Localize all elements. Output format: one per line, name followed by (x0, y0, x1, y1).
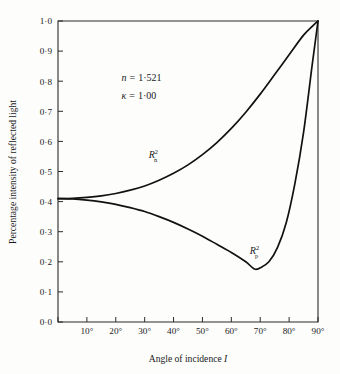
x-tick-label: 30° (138, 326, 151, 336)
y-tick-label: 0·0 (40, 317, 53, 327)
parameter-annotations: n=1·521κ=1·00 (122, 72, 162, 101)
y-tick-label: 0·4 (40, 197, 53, 207)
y-tick-label: 0·8 (40, 77, 53, 87)
x-tick-label: 90° (312, 326, 325, 336)
x-tick-label: 40° (167, 326, 180, 336)
x-tick-label: 20° (109, 326, 122, 336)
curve-label-R_n^2: R2n (148, 148, 158, 163)
curve-labels: R2nR2p (148, 148, 259, 260)
y-tick-label: 0·5 (40, 167, 53, 177)
x-tick-label: 50° (196, 326, 209, 336)
x-tick-labels: 10°20°30°40°50°60°70°80°90° (80, 326, 324, 336)
y-tick-label: 0·1 (40, 287, 53, 297)
x-tick-label: 60° (225, 326, 238, 336)
x-axis-title: Angle of incidence I (149, 353, 228, 364)
plot-frame (58, 21, 318, 322)
figure-container: 0·00·10·20·30·40·50·60·70·80·91·0 10°20°… (0, 0, 340, 374)
y-tick-label: 0·6 (40, 137, 53, 147)
reflectance-chart: 0·00·10·20·30·40·50·60·70·80·91·0 10°20°… (0, 0, 340, 374)
x-tick-label: 70° (254, 326, 267, 336)
curve-label-R_p^2: R2p (249, 244, 259, 259)
annotation-refractive-index: n=1·521 (122, 72, 162, 83)
x-tick-label: 80° (283, 326, 296, 336)
y-tick-labels: 0·00·10·20·30·40·50·60·70·80·91·0 (40, 16, 53, 327)
y-tick-label: 1·0 (40, 16, 53, 26)
data-curves (58, 21, 318, 269)
y-tick-label: 0·2 (40, 257, 53, 267)
annotation-extinction-coefficient: κ=1·00 (122, 90, 157, 101)
y-tick-marks (58, 21, 63, 322)
y-tick-label: 0·7 (40, 107, 53, 117)
y-tick-label: 0·9 (40, 46, 53, 56)
curve-R_n^2 (58, 21, 318, 199)
y-axis-title: Percentage intensity of reflected light (7, 100, 18, 244)
x-tick-marks (58, 317, 318, 322)
y-tick-label: 0·3 (40, 227, 53, 237)
curve-R_p^2 (58, 21, 318, 269)
x-tick-label: 10° (80, 326, 93, 336)
